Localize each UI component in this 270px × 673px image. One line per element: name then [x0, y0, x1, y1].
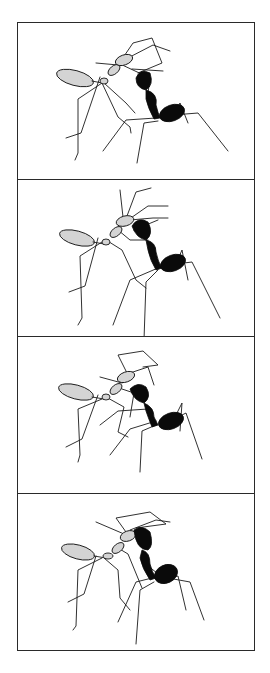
black-ant — [100, 384, 202, 472]
ant-pair-illustration — [18, 23, 254, 179]
panel-1 — [17, 22, 255, 179]
black-ant — [113, 220, 220, 336]
ant-interaction-figure — [17, 22, 255, 651]
ant-pair-illustration — [18, 337, 254, 493]
panel-4 — [17, 493, 255, 651]
ant-pair-illustration — [18, 494, 254, 650]
panel-2 — [17, 179, 255, 336]
black-ant — [118, 527, 204, 644]
black-ant — [103, 69, 228, 163]
ant-pair-illustration — [18, 180, 254, 336]
grey-ant — [60, 512, 170, 630]
grey-ant — [57, 351, 158, 462]
panel-3 — [17, 336, 255, 493]
